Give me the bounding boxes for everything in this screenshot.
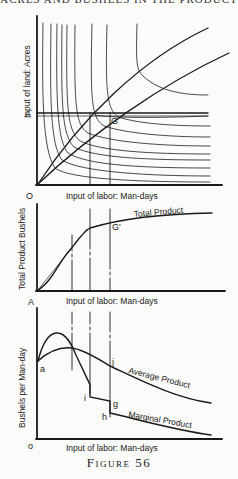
total-product-chart: [36, 204, 225, 291]
label-h: h: [102, 412, 107, 422]
label-G: G: [111, 116, 118, 126]
top-y-axis-label: Input of land: Acres: [22, 45, 32, 118]
label-A-top: A: [25, 109, 31, 119]
mid-x-axis-label: Input of labor: Man-days: [66, 296, 158, 306]
figure-caption: Figure 56: [0, 455, 238, 471]
total-product-curve: [38, 213, 212, 290]
tangent-ray: [38, 229, 87, 290]
top-origin-label: O: [26, 191, 33, 201]
top-x-axis-label: Input of labor: Man-days: [66, 191, 158, 201]
label-g: g: [113, 399, 118, 409]
marginal-product-label: Marginal Product: [128, 409, 194, 430]
figure-56: Input of land: Acres A G O Input of labo…: [0, 0, 238, 479]
label-G-prime: G': [112, 222, 121, 232]
label-j: j: [111, 357, 114, 367]
average-product-label: Average Product: [128, 365, 192, 390]
total-product-label: Total Product: [133, 205, 184, 219]
bottom-origin-label: o: [28, 441, 33, 451]
mid-origin-label: A: [28, 297, 34, 307]
label-a: a: [40, 364, 45, 374]
average-product-curve: [38, 348, 211, 403]
bottom-y-axis-label: Bushels per Man-day: [17, 347, 27, 428]
mid-y-axis-label: Total Product Bushels: [17, 208, 27, 290]
isoquant-chart: [36, 16, 229, 185]
bottom-x-axis-label: Input of labor: Man-days: [66, 443, 158, 453]
label-i: i: [84, 393, 86, 403]
